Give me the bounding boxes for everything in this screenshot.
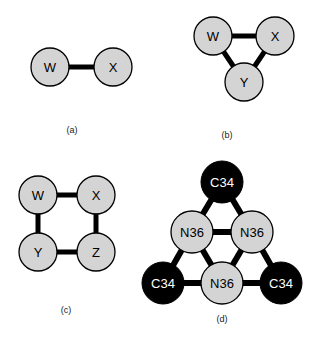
graph-node[interactable]: C34: [142, 262, 184, 304]
graph-node[interactable]: X: [77, 176, 115, 214]
node-label: C34: [210, 175, 234, 190]
panel-b-caption: (b): [222, 130, 233, 140]
graph-node[interactable]: W: [31, 48, 69, 86]
graph-node[interactable]: X: [94, 48, 132, 86]
graph-node[interactable]: N36: [231, 211, 273, 253]
graph-node[interactable]: Z: [77, 233, 115, 271]
panel-a-caption: (a): [67, 125, 78, 135]
graph-node[interactable]: X: [256, 17, 294, 55]
node-label: W: [207, 29, 220, 44]
node-label: Y: [240, 75, 249, 90]
node-label: N36: [210, 276, 234, 291]
node-label: Y: [34, 245, 43, 260]
figure-canvas: WX(a)WXY(b)WXYZ(c)C34N36N36C34N36C34(d): [0, 0, 317, 337]
node-label: C34: [151, 276, 175, 291]
node-label: W: [44, 60, 57, 75]
node-label: X: [92, 188, 101, 203]
graph-node[interactable]: Y: [19, 233, 57, 271]
graph-node[interactable]: N36: [171, 211, 213, 253]
graph-node[interactable]: C34: [201, 161, 243, 203]
panel-c-caption: (c): [61, 305, 72, 315]
node-label: X: [109, 60, 118, 75]
node-label: C34: [269, 276, 293, 291]
graph-node[interactable]: Y: [225, 63, 263, 101]
graph-node[interactable]: W: [194, 17, 232, 55]
graph-node[interactable]: N36: [201, 262, 243, 304]
graph-figure: WX(a)WXY(b)WXYZ(c)C34N36N36C34N36C34(d): [0, 0, 317, 337]
node-label: X: [271, 29, 280, 44]
node-label: W: [32, 188, 45, 203]
node-label: N36: [180, 225, 204, 240]
graph-node[interactable]: W: [19, 176, 57, 214]
panel-d-caption: (d): [217, 314, 228, 324]
node-label: Z: [92, 245, 100, 260]
graph-node[interactable]: C34: [260, 262, 302, 304]
node-label: N36: [240, 225, 264, 240]
